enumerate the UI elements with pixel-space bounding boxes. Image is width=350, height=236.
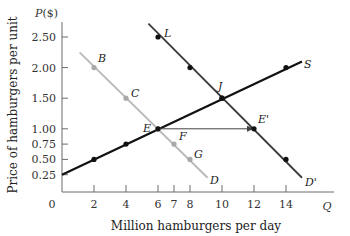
data-point [187,157,192,162]
x-tick-label: 6 [155,198,162,211]
point-label: E' [257,113,269,126]
y-tick-label: 1.50 [32,92,57,105]
data-point [283,65,288,70]
point-label: G [194,148,203,161]
x-tick-label: 2 [91,198,98,211]
y-tick-label: 0.50 [32,153,57,166]
y-tick-label: 2.00 [32,62,57,75]
x-tick-label: 12 [247,198,261,211]
supply-demand-chart: 0.250.500.751.001.502.002.50P($)24678101… [0,0,350,236]
data-point [155,126,160,131]
y-tick-label: 0.25 [32,169,57,182]
point-label: C [131,87,140,100]
data-point [251,126,256,131]
x-tick-label: 4 [123,198,130,211]
point-label: B [97,52,106,65]
y-axis-symbol: P($) [34,7,58,20]
curve-label-d-prime: D' [304,176,317,189]
labels: BCEFGLJE'SDD' [97,27,317,189]
point-label: F [178,130,187,143]
x-tick-label: 14 [279,198,293,211]
x-axis-symbol: Q [322,200,331,213]
x-tick-label: 8 [187,198,194,211]
point-label: L [163,27,171,40]
axes: 0.250.500.751.001.502.002.50P($)24678101… [6,7,334,233]
y-tick-label: 0.75 [32,138,57,151]
curves [62,24,302,178]
data-point [187,65,192,70]
data-point [123,96,128,101]
point-label: J [216,80,223,93]
curve-label-s: S [304,58,312,71]
y-axis-title: Price of hamburgers per unit [6,16,20,193]
x-axis-title: Million hamburgers per day [111,219,281,233]
x-tick-label: 7 [171,198,178,211]
data-point [219,96,224,101]
data-point [91,65,96,70]
curve-d-prime [148,24,302,178]
y-tick-label: 2.50 [32,31,57,44]
data-point [171,142,176,147]
x-tick-label: 10 [215,198,229,211]
origin-label: 0 [49,198,56,211]
data-point [91,157,96,162]
curve-label-d: D [209,174,219,187]
point-label: E [142,122,151,135]
data-point [155,34,160,39]
y-tick-label: 1.00 [32,123,57,136]
data-point [123,142,128,147]
data-point [283,157,288,162]
